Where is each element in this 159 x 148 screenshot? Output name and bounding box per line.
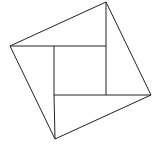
outer-tilted-square xyxy=(10,2,151,139)
inner-square xyxy=(54,46,106,95)
triangle-legs xyxy=(10,2,151,139)
pythagorean-proof-diagram xyxy=(0,0,159,148)
triangle-leg-line xyxy=(54,95,55,139)
